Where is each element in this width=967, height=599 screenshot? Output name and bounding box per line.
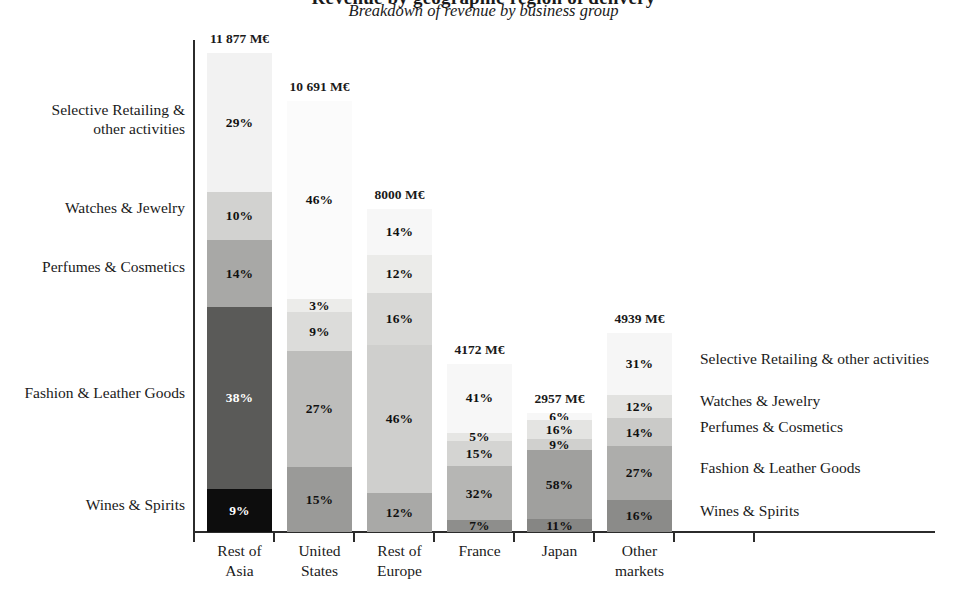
bar-segment-value: 12% <box>386 267 413 281</box>
bar-segment-value: 38% <box>226 391 253 405</box>
series-label-right: Selective Retailing & other activities <box>700 349 929 368</box>
series-label-left: Perfumes & Cosmetics <box>42 257 185 276</box>
bar-segment-value: 16% <box>546 423 573 437</box>
y-axis-line <box>193 40 195 533</box>
bar-segment[interactable]: 14% <box>207 240 272 307</box>
bar-segment-value: 41% <box>466 391 493 405</box>
bar-segment[interactable]: 31% <box>607 333 672 395</box>
x-axis-category-label: Rest of Europe <box>355 541 444 581</box>
bar-segment[interactable]: 14% <box>607 418 672 446</box>
bar-column[interactable]: 10 691 M€46%3%9%27%15% <box>287 101 352 532</box>
series-label-right: Perfumes & Cosmetics <box>700 417 843 436</box>
bar-segment[interactable]: 9% <box>287 312 352 351</box>
bar-segment-value: 46% <box>386 412 413 426</box>
bar-segment-value: 9% <box>309 325 329 339</box>
x-axis-category-label: France <box>435 541 524 561</box>
bar-segment-value: 14% <box>226 267 253 281</box>
bar-segment[interactable]: 15% <box>447 441 512 466</box>
bar-segment-value: 27% <box>626 466 653 480</box>
stacked-bar-chart: Revenue by geographic region of delivery… <box>0 0 967 599</box>
bar-segment[interactable]: 10% <box>207 192 272 240</box>
bar-segment[interactable]: 15% <box>287 467 352 532</box>
bar-segment[interactable]: 14% <box>367 209 432 254</box>
bar-segment[interactable]: 32% <box>447 466 512 520</box>
bar-segment-value: 10% <box>226 209 253 223</box>
bar-segment[interactable]: 27% <box>607 446 672 500</box>
bar-segment-value: 14% <box>386 225 413 239</box>
bar-segment[interactable]: 41% <box>447 364 512 433</box>
bar-segment[interactable]: 16% <box>607 500 672 532</box>
bar-segment-value: 12% <box>386 506 413 520</box>
series-label-left: Fashion & Leather Goods <box>24 383 185 402</box>
bar-segment[interactable]: 12% <box>367 255 432 294</box>
bar-segment-value: 46% <box>306 193 333 207</box>
chart-subtitle: Breakdown of revenue by business group <box>0 1 967 21</box>
bar-segment-value: 27% <box>306 402 333 416</box>
series-label-right: Watches & Jewelry <box>700 391 820 410</box>
bar-total-label: 10 691 M€ <box>290 79 350 95</box>
bar-segment-value: 58% <box>546 478 573 492</box>
bar-segment[interactable]: 3% <box>287 299 352 312</box>
bar-total-label: 11 877 M€ <box>210 31 269 47</box>
bar-segment[interactable]: 6% <box>527 413 592 420</box>
bar-segment-value: 14% <box>626 426 653 440</box>
bar-segment-value: 9% <box>229 504 249 518</box>
bar-segment[interactable]: 5% <box>447 433 512 441</box>
series-label-right: Wines & Spirits <box>700 501 799 520</box>
bar-segment[interactable]: 29% <box>207 53 272 192</box>
bar-segment[interactable]: 46% <box>287 101 352 299</box>
bar-total-label: 4939 M€ <box>615 311 665 327</box>
bar-column[interactable]: 4939 M€31%12%14%27%16% <box>607 333 672 532</box>
x-axis-category-label: Japan <box>515 541 604 561</box>
bar-segment-value: 15% <box>466 447 493 461</box>
bar-total-label: 2957 M€ <box>535 391 585 407</box>
x-axis-category-label: United States <box>275 541 364 581</box>
x-axis-category-label: Rest of Asia <box>195 541 284 581</box>
x-axis-tick-7 <box>753 533 755 542</box>
series-label-right: Fashion & Leather Goods <box>700 458 861 477</box>
bar-segment[interactable]: 46% <box>367 345 432 493</box>
bar-segment[interactable]: 12% <box>367 493 432 532</box>
bar-segment-value: 32% <box>466 487 493 501</box>
bar-segment-value: 15% <box>306 493 333 507</box>
bar-total-label: 4172 M€ <box>455 342 505 358</box>
bar-segment-value: 16% <box>386 312 413 326</box>
bar-column[interactable]: 8000 M€14%12%16%46%12% <box>367 209 432 532</box>
bar-segment-value: 29% <box>226 116 253 130</box>
bar-segment-value: 12% <box>626 400 653 414</box>
bar-segment[interactable]: 38% <box>207 307 272 489</box>
bar-segment[interactable]: 12% <box>607 395 672 419</box>
bar-segment-value: 7% <box>469 519 489 533</box>
bar-segment[interactable]: 9% <box>207 489 272 532</box>
bar-segment-value: 3% <box>309 299 329 313</box>
bar-segment[interactable]: 58% <box>527 450 592 519</box>
bar-segment[interactable]: 9% <box>527 439 592 450</box>
bar-segment-value: 31% <box>626 357 653 371</box>
bar-segment[interactable]: 7% <box>447 520 512 532</box>
bar-column[interactable]: 4172 M€41%5%15%32%7% <box>447 364 512 532</box>
series-label-left: Selective Retailing & other activities <box>52 100 185 139</box>
series-label-left: Wines & Spirits <box>86 495 185 514</box>
bar-total-label: 8000 M€ <box>375 187 425 203</box>
bar-segment[interactable]: 27% <box>287 351 352 467</box>
bar-column[interactable]: 11 877 M€29%10%14%38%9% <box>207 53 272 532</box>
x-axis-category-label: Other markets <box>595 541 684 581</box>
bar-segment-value: 11% <box>546 519 573 533</box>
bar-segment-value: 16% <box>626 509 653 523</box>
bar-segment[interactable]: 16% <box>367 293 432 345</box>
series-label-left: Watches & Jewelry <box>65 198 185 217</box>
bar-segment[interactable]: 11% <box>527 519 592 532</box>
bar-column[interactable]: 2957 M€6%16%9%58%11% <box>527 413 592 532</box>
